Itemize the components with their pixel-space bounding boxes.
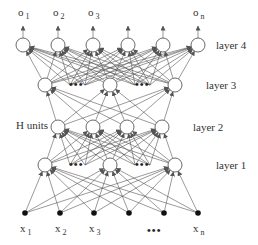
layer1-node [38,158,52,172]
connection-edge [47,92,56,121]
connection-edge [132,131,169,160]
input-node [91,210,97,216]
input-label: x2 [55,222,67,237]
output-label: on [193,6,205,21]
layer4-label: layer 4 [216,39,247,51]
layer1-node [168,158,182,172]
connection-edge [47,134,55,159]
input-label: x3 [89,222,101,237]
h-units-label: H units [16,119,48,131]
layer2-node [86,120,100,134]
connection-edge [132,90,169,123]
connection-edge [51,88,121,124]
connection-edge [99,88,169,124]
input-node [22,210,28,216]
layer2-node [155,120,169,134]
input-node [195,210,201,216]
connection-edge [116,48,191,82]
input-node [57,210,63,216]
input-node [161,210,167,216]
ellipsis: ••• [69,78,84,90]
layer1-node [103,158,117,172]
layer2-label: layer 2 [193,121,223,133]
input-label: x1 [20,222,32,237]
layer4-node [51,38,65,52]
neural-network-diagram: •••••••••••• H units layer 1layer 2layer… [0,0,258,245]
layer4-node [156,38,170,52]
layer3-label: layer 3 [206,79,237,91]
connection-edge [27,168,104,211]
layer3-node [38,78,52,92]
layer2-node [120,120,134,134]
layer1-label: layer 1 [216,159,246,171]
output-label: o2 [53,6,65,21]
connection-edge [115,170,162,212]
connection-edge [99,130,168,162]
input-ellipsis: ••• [147,224,162,236]
layer2-node [51,120,65,134]
connection-edge [164,134,172,159]
connection-edge [50,90,87,123]
layer4-node [121,38,135,52]
layer4-node [16,38,30,52]
output-label: o3 [88,6,100,21]
connection-edge [62,170,105,211]
connection-edge [178,171,197,210]
input-node [126,210,132,216]
output-arrows [23,26,198,38]
connection-edge [50,131,87,160]
connection-edge [27,167,168,212]
ellipsis: ••• [135,78,150,90]
layer3-node [168,78,182,92]
ellipsis: ••• [135,158,150,170]
output-label: o1 [18,6,30,21]
connection-edge [164,92,173,121]
layer3-node [103,78,117,92]
connection-edge [50,49,87,80]
connection-edge [178,51,194,79]
connection-edge [52,167,196,212]
layer4-node [191,38,205,52]
input-label: xn [193,222,205,237]
connection-edge [116,168,196,211]
connection-edge [65,87,169,124]
layer4-node [86,38,100,52]
ellipsis: ••• [69,158,84,170]
connection-edge [50,170,92,211]
connection-edge [150,134,160,165]
connection-edge [131,170,170,211]
connection-edge [52,87,156,124]
